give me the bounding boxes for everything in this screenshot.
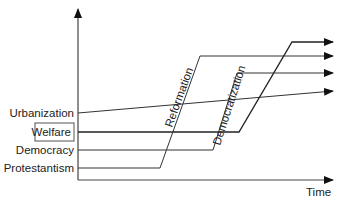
urbanization-line (78, 91, 333, 113)
series-label-welfare: Welfare (32, 126, 71, 138)
transition-label-reformation: Reformation (163, 66, 196, 129)
x-axis-label: Time (306, 186, 331, 198)
series-label-protestantism: Protestantism (4, 162, 74, 174)
series-label-democracy: Democracy (16, 144, 74, 156)
series-label-urbanization: Urbanization (9, 107, 74, 119)
diagram-canvas: Time Urbanization Welfare Democracy Prot… (0, 0, 347, 206)
transition-label-democratization: Democratization (210, 64, 247, 147)
democracy-line (78, 73, 333, 150)
